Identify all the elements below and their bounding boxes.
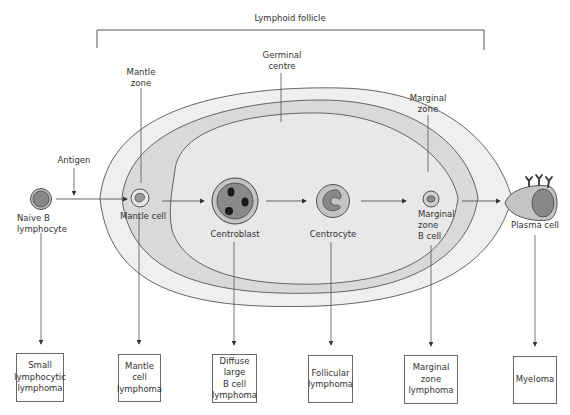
antigen-label: Antigen <box>54 155 94 166</box>
lymphoma-box-mantle-cell: Mantle cell lymphoma <box>118 354 161 402</box>
lymphoma-box-myeloma: Myeloma <box>513 356 557 404</box>
marginal-zone-b-cell <box>423 191 439 207</box>
centroblast-cell <box>212 178 258 224</box>
germinal-centre-label: Germinal centre <box>259 50 305 72</box>
centrocyte-label: Centrocyte <box>303 229 363 240</box>
mantle-cell <box>131 189 149 207</box>
lymphoma-box-small-lymphocytic: Small lymphocytic lymphoma <box>16 353 64 402</box>
naive-b-lymphocyte-cell <box>31 189 52 210</box>
marginal-zone-label: Marginal zone <box>406 93 450 115</box>
centroblast-label: Centroblast <box>205 229 265 240</box>
follicle-bracket <box>97 30 484 50</box>
mantle-zone-label: Mantle zone <box>121 67 161 89</box>
mantle-cell-label: Mantle cell <box>118 211 168 222</box>
follicle-title: Lymphoid follicle <box>250 13 330 24</box>
lymphoma-box-follicular: Follicular lymphoma <box>308 355 353 403</box>
plasma-cell <box>505 175 557 220</box>
lymphoma-origin-diagram: Lymphoid follicle Mantle zone Germinal c… <box>0 0 570 415</box>
centrocyte-cell <box>317 185 350 218</box>
plasma-cell-label: Plasma cell <box>510 220 560 231</box>
lymphoma-box-dlbcl: Diffuse large B cell lymphoma <box>212 354 257 403</box>
marginal-zone-b-cell-label: Marginal zone B cell <box>418 209 455 242</box>
lymphoma-box-marginal-zone: Marginal zone lymphoma <box>404 355 458 404</box>
antibody-icons <box>526 175 552 187</box>
naive-b-lymphocyte-label: Naive B lymphocyte <box>17 213 67 235</box>
